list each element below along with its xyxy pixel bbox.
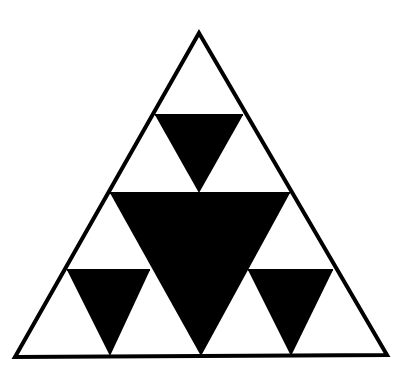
sierpinski-triangle-diagram xyxy=(0,0,404,383)
